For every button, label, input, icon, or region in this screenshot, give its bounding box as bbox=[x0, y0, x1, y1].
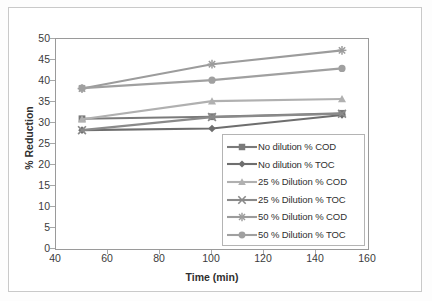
legend-item-label: 25 % Dilution % TOC bbox=[258, 195, 346, 205]
legend-item-label: 25 % Dilution % COD bbox=[258, 177, 347, 187]
x-tick-mark bbox=[107, 250, 108, 254]
legend-key-glyph bbox=[226, 157, 258, 171]
legend-key-glyph bbox=[226, 175, 258, 189]
legend-item[interactable]: No dilution % COD bbox=[226, 138, 360, 156]
legend-key bbox=[226, 193, 258, 207]
y-tick-mark bbox=[50, 122, 55, 123]
x-tick-mark bbox=[211, 250, 212, 254]
diamond-marker-icon bbox=[238, 161, 245, 168]
circle-marker-icon bbox=[208, 77, 215, 84]
circle-marker-icon bbox=[338, 65, 345, 72]
legend-item[interactable]: No dilution % TOC bbox=[226, 156, 360, 174]
y-tick-mark bbox=[50, 80, 55, 81]
legend-item[interactable]: 50 % Dilution % TOC bbox=[226, 226, 360, 244]
asterisk-marker-icon bbox=[238, 213, 246, 221]
legend-item-label: No dilution % COD bbox=[258, 142, 336, 152]
legend-key bbox=[226, 210, 258, 224]
y-tick-mark bbox=[50, 164, 55, 165]
x-tick-label: 140 bbox=[295, 253, 335, 264]
asterisk-marker-icon bbox=[338, 46, 347, 55]
legend-key bbox=[226, 175, 258, 189]
series-5 bbox=[78, 65, 345, 92]
chart-figure: 50454035302520151050 % Reduction 4060801… bbox=[0, 0, 432, 301]
legend-key bbox=[226, 140, 258, 154]
legend-item-label: 50 % Dilution % COD bbox=[258, 212, 347, 222]
legend-item[interactable]: 25 % Dilution % TOC bbox=[226, 191, 360, 209]
y-tick-mark bbox=[50, 143, 55, 144]
x-tick-label: 120 bbox=[243, 253, 283, 264]
x-tick-mark bbox=[159, 250, 160, 254]
y-tick-label: 5 bbox=[26, 222, 50, 233]
legend-key-glyph bbox=[226, 228, 258, 242]
legend-item[interactable]: 50 % Dilution % COD bbox=[226, 208, 360, 226]
legend-item-label: 50 % Dilution % TOC bbox=[258, 230, 346, 240]
y-tick-mark bbox=[50, 248, 55, 249]
y-tick-mark bbox=[50, 101, 55, 102]
circle-marker-icon bbox=[239, 231, 246, 238]
legend-key-glyph bbox=[226, 210, 258, 224]
legend-item[interactable]: 25 % Dilution % COD bbox=[226, 173, 360, 191]
y-tick-label: 0 bbox=[26, 243, 50, 254]
x-axis-title: Time (min) bbox=[55, 271, 369, 283]
legend-key bbox=[226, 228, 258, 242]
y-tick-mark bbox=[50, 206, 55, 207]
diamond-marker-icon bbox=[208, 125, 216, 133]
square-marker-icon bbox=[239, 144, 245, 150]
y-tick-label: 10 bbox=[26, 201, 50, 212]
y-axis-title: % Reduction bbox=[23, 83, 35, 193]
x-tick-mark bbox=[315, 250, 316, 254]
chart-legend: No dilution % CODNo dilution % TOC25 % D… bbox=[222, 134, 365, 246]
legend-key-glyph bbox=[226, 193, 258, 207]
y-tick-label: 45 bbox=[26, 54, 50, 65]
legend-key bbox=[226, 157, 258, 171]
x-tick-label: 100 bbox=[191, 253, 231, 264]
x-tick-label: 40 bbox=[35, 253, 75, 264]
circle-marker-icon bbox=[78, 85, 85, 92]
legend-key-glyph bbox=[226, 140, 258, 154]
x-tick-label: 80 bbox=[139, 253, 179, 264]
y-tick-mark bbox=[50, 185, 55, 186]
legend-item-label: No dilution % TOC bbox=[258, 160, 335, 170]
asterisk-marker-icon bbox=[208, 60, 217, 69]
y-tick-mark bbox=[50, 59, 55, 60]
x-tick-mark bbox=[263, 250, 264, 254]
x-tick-label: 60 bbox=[87, 253, 127, 264]
x-axis-tick-labels: 406080100120140160 bbox=[55, 253, 369, 269]
y-tick-mark bbox=[50, 227, 55, 228]
y-tick-mark bbox=[50, 38, 55, 39]
y-tick-label: 50 bbox=[26, 33, 50, 44]
x-tick-label: 160 bbox=[347, 253, 387, 264]
